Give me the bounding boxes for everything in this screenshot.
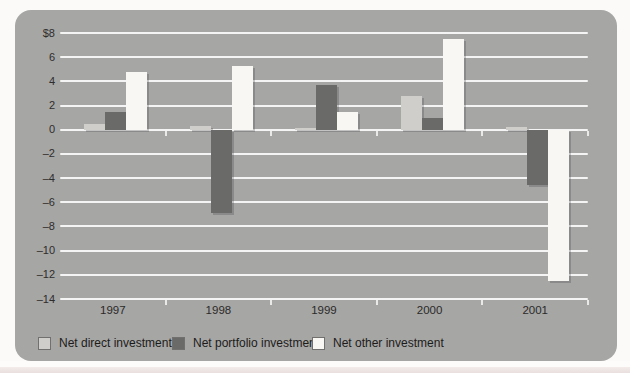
x-tick-label: 2000 (377, 303, 483, 317)
x-tick-label: 1997 (60, 303, 166, 317)
x-tick-label: 1998 (166, 303, 272, 317)
y-tick-label: $8 (21, 26, 55, 41)
bar-net-direct-investment-1998 (190, 126, 211, 130)
page: $86420–2–4–6–8–10–12–14 1997199819992000… (0, 0, 630, 373)
bar-net-portfolio-investment-2001 (527, 130, 548, 186)
bar-net-portfolio-investment-2000 (422, 118, 443, 130)
bar-net-other-investment-2000 (443, 39, 464, 130)
bar-net-other-investment-2001 (548, 130, 569, 281)
axis-boundary-tick (270, 131, 272, 136)
gridline (60, 225, 588, 227)
legend-item-net-other-investment: Net other investment (312, 336, 444, 350)
legend-label: Net other investment (333, 336, 444, 350)
y-tick-label: 4 (21, 74, 55, 89)
y-tick-label: –14 (21, 292, 55, 307)
plot-area (60, 33, 588, 299)
gridline (60, 201, 588, 203)
bar-net-other-investment-1998 (232, 66, 253, 130)
gridline (60, 56, 588, 58)
bar-net-portfolio-investment-1997 (105, 112, 126, 130)
bar-net-direct-investment-1997 (84, 124, 105, 130)
gridline (60, 250, 588, 252)
bar-net-other-investment-1999 (337, 112, 358, 130)
y-tick-label: –4 (21, 171, 55, 186)
gridline (60, 177, 588, 179)
legend-label: Net direct investment (59, 336, 172, 350)
bar-net-direct-investment-2001 (506, 127, 527, 129)
y-tick-label: 6 (21, 50, 55, 65)
legend-item-net-direct-investment: Net direct investment (38, 336, 172, 350)
legend-swatch-net-portfolio-investment (172, 337, 185, 350)
y-tick-label: 0 (21, 122, 55, 137)
axis-boundary-tick (587, 131, 589, 136)
chart-panel: $86420–2–4–6–8–10–12–14 1997199819992000… (15, 10, 617, 361)
gridline (60, 32, 588, 34)
legend-swatch-net-other-investment (312, 337, 325, 350)
legend-swatch-net-direct-investment (38, 337, 51, 350)
y-tick-label: –8 (21, 219, 55, 234)
bar-net-other-investment-1997 (126, 72, 147, 130)
axis-boundary-tick (376, 131, 378, 136)
x-tick-label: 2001 (482, 303, 588, 317)
y-tick-label: 2 (21, 98, 55, 113)
legend-label: Net portfolio investment (193, 336, 319, 350)
y-tick-label: –6 (21, 195, 55, 210)
bar-net-direct-investment-2000 (401, 96, 422, 130)
axis-boundary-tick (481, 131, 483, 136)
gridline (60, 153, 588, 155)
x-tick-label: 1999 (271, 303, 377, 317)
y-tick-label: –2 (21, 146, 55, 161)
bar-net-portfolio-investment-1998 (211, 130, 232, 213)
bar-net-portfolio-investment-1999 (316, 85, 337, 130)
page-bottom-strip (0, 367, 630, 373)
gridline (60, 274, 588, 276)
y-tick-label: –12 (21, 267, 55, 282)
legend-item-net-portfolio-investment: Net portfolio investment (172, 336, 319, 350)
axis-boundary-tick (165, 131, 167, 136)
y-tick-label: –10 (21, 243, 55, 258)
gridline (60, 298, 588, 300)
bar-net-direct-investment-1999 (295, 128, 316, 130)
